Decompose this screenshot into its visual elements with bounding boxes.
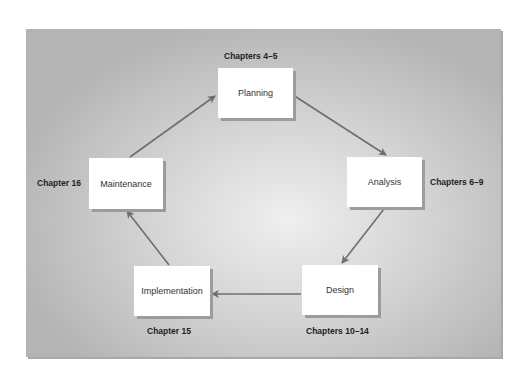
implementation-chapters-label: Chapter 15 xyxy=(147,326,191,336)
analysis-label: Analysis xyxy=(368,177,402,187)
design-chapters-label: Chapters 10–14 xyxy=(306,326,369,336)
implementation-box: Implementation xyxy=(134,266,210,316)
arrow-analysis-to-design xyxy=(342,209,384,263)
arrow-planning-to-analysis xyxy=(293,95,386,155)
maintenance-chapters-label: Chapter 16 xyxy=(37,178,81,188)
analysis-box: Analysis xyxy=(347,157,422,207)
design-box: Design xyxy=(302,265,378,315)
maintenance-box: Maintenance xyxy=(89,158,163,209)
arrow-implementation-to-maintenance xyxy=(127,211,169,265)
arrow-maintenance-to-planning xyxy=(130,96,215,157)
planning-label: Planning xyxy=(238,88,273,98)
planning-box: Planning xyxy=(218,68,293,118)
planning-chapters-label: Chapters 4–5 xyxy=(224,51,277,61)
analysis-chapters-label: Chapters 6–9 xyxy=(430,177,483,187)
implementation-label: Implementation xyxy=(141,286,203,296)
design-label: Design xyxy=(326,285,354,295)
maintenance-label: Maintenance xyxy=(100,179,152,189)
